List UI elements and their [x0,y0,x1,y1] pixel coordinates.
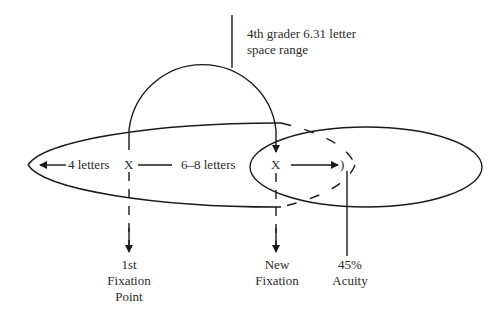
range-annotation-line1: 4th grader 6.31 letter [247,26,356,42]
eye-fixation-diagram: 4th grader 6.31 letter space range 4 let… [0,0,500,318]
right-span-label: 6–8 letters [181,157,236,173]
first-fixation-label-line1: 1st [121,257,136,273]
acuity-label-line1: 45% [338,257,362,273]
acuity-label-line2: Acuity [332,273,367,289]
new-fixation-marker: X [271,157,280,173]
new-fixation-label-line2: Fixation [255,273,298,289]
left-span-label: 4 letters [68,157,110,173]
first-fixation-label-line2: Fixation [107,273,150,289]
new-span-ellipse [250,127,482,207]
range-annotation-line2: space range [247,42,308,58]
new-fixation-label-line1: New [265,257,290,273]
acuity-marker: ) [340,157,344,173]
saccade-arc [129,65,276,152]
first-fixation-label-line3: Point [115,289,142,305]
first-fixation-marker: X [124,157,133,173]
